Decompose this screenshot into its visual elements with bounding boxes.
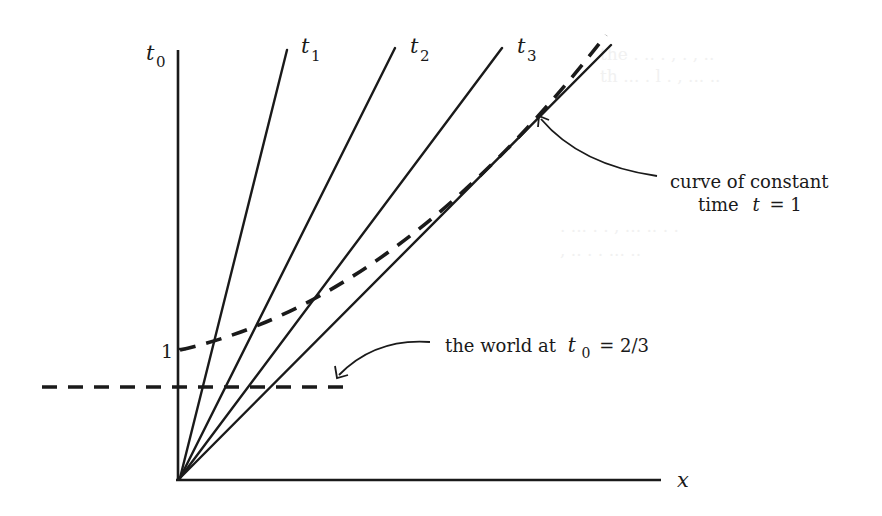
worldline-subscript-1: 1 <box>311 47 321 65</box>
labels: t 0 t 1 t 2 t 3 1 x curve of constant ti… <box>146 34 829 492</box>
worldline-label-t2: t <box>410 34 419 58</box>
worldline-t2 <box>180 48 395 478</box>
arrow-world <box>335 342 430 378</box>
constant-time-annotation-line2: time t = 1 <box>698 194 802 215</box>
worldline-t1 <box>180 50 287 478</box>
axes <box>176 50 661 481</box>
svg-text:, .. . . ... ..: , .. . . ... .. <box>560 240 641 260</box>
worldlines <box>180 45 611 478</box>
worldline-t3 <box>180 48 502 478</box>
tick-label-1: 1 <box>161 340 173 362</box>
svg-text:. ... . . , ... .. . .: . ... . . , ... .. . . <box>560 216 679 236</box>
worldline-label-t3: t <box>517 34 526 58</box>
arrow-constant-time <box>538 116 657 176</box>
spacetime-diagram: the . .. . , . , .. th ... . l . , ... .… <box>0 0 882 516</box>
worldline-label-t1: t <box>301 34 310 58</box>
light-cone-line <box>180 45 611 478</box>
bleed-through-text: the . .. . , . , .. th ... . l . , ... .… <box>560 44 721 260</box>
svg-text:th ... . l . , ... ..: th ... . l . , ... .. <box>600 66 721 86</box>
y-axis-subscript: 0 <box>156 53 166 71</box>
worldline-subscript-2: 2 <box>420 47 430 65</box>
worldline-subscript-3: 3 <box>527 47 537 65</box>
x-axis-label: x <box>677 468 689 492</box>
svg-text:the . .. . , . , ..: the . .. . , . , .. <box>600 44 714 64</box>
constant-time-annotation-line1: curve of constant <box>670 171 829 192</box>
y-axis-label: t <box>146 41 155 65</box>
world-annotation: the world at t 0 = 2/3 <box>445 333 649 362</box>
